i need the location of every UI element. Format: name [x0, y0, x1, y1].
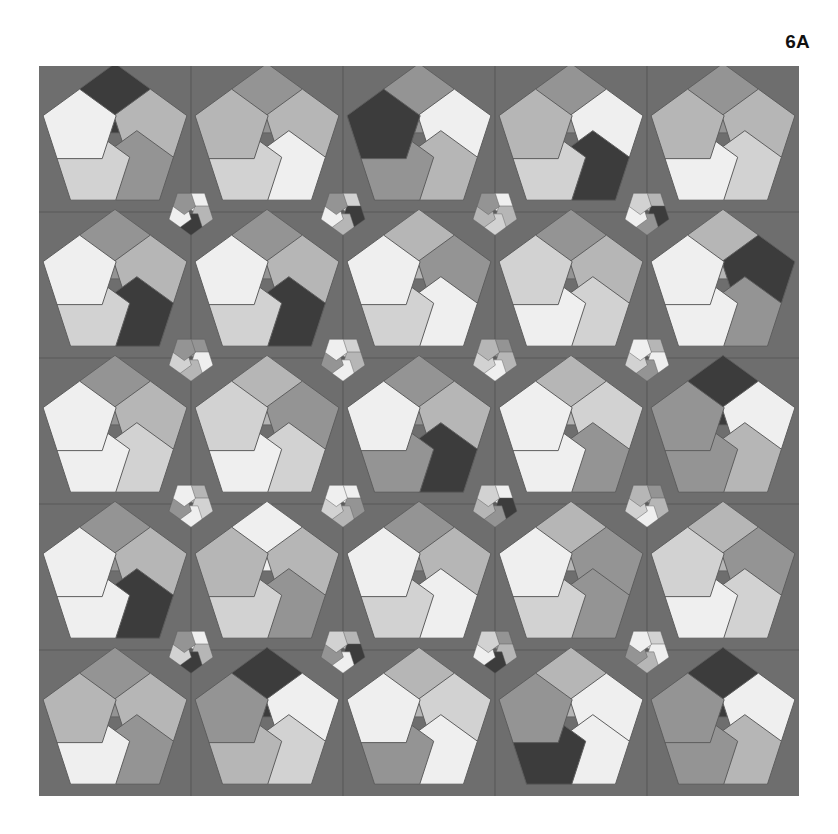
tiling-canvas [39, 66, 799, 796]
tiling-figure [39, 66, 799, 796]
figure-label: 6A [785, 32, 810, 51]
